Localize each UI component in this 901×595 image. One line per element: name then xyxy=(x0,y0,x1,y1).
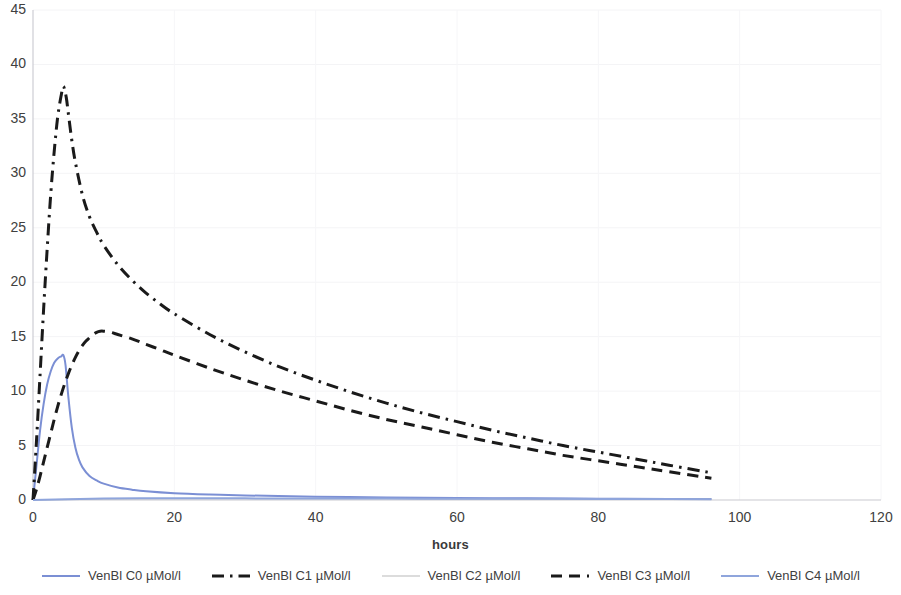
legend-swatch xyxy=(41,570,81,582)
x-tick-label: 60 xyxy=(437,509,477,525)
x-axis-title: hours xyxy=(0,537,901,552)
legend-label: VenBl C2 µMol/l xyxy=(428,568,521,583)
legend-label: VenBl C3 µMol/l xyxy=(597,568,690,583)
chart-legend: VenBl C0 µMol/lVenBl C1 µMol/lVenBl C2 µ… xyxy=(0,568,901,583)
legend-swatch xyxy=(381,570,421,582)
legend-item[interactable]: VenBl C0 µMol/l xyxy=(41,568,181,583)
data-series-group xyxy=(33,86,711,500)
y-tick-label: 40 xyxy=(0,55,26,71)
y-tick-label: 25 xyxy=(0,219,26,235)
legend-label: VenBl C1 µMol/l xyxy=(258,568,351,583)
legend-item[interactable]: VenBl C2 µMol/l xyxy=(381,568,521,583)
legend-swatch xyxy=(720,570,760,582)
y-tick-label: 15 xyxy=(0,328,26,344)
series-line-venbl-c0-mol-l xyxy=(33,355,711,500)
x-tick-label: 0 xyxy=(13,509,53,525)
x-tick-label: 40 xyxy=(296,509,336,525)
x-tick-label: 100 xyxy=(720,509,760,525)
legend-label: VenBl C4 µMol/l xyxy=(767,568,860,583)
series-line-venbl-c3-mol-l xyxy=(33,331,711,500)
x-tick-label: 80 xyxy=(578,509,618,525)
gridlines xyxy=(33,10,881,500)
legend-item[interactable]: VenBl C3 µMol/l xyxy=(550,568,690,583)
y-tick-label: 45 xyxy=(0,1,26,17)
y-tick-label: 35 xyxy=(0,110,26,126)
legend-swatch xyxy=(550,570,590,582)
x-tick-label: 20 xyxy=(154,509,194,525)
series-line-venbl-c1-mol-l xyxy=(33,86,711,500)
plot-area xyxy=(0,0,901,595)
chart-container: 051015202530354045 020406080100120 hours… xyxy=(0,0,901,595)
y-tick-label: 0 xyxy=(0,491,26,507)
y-tick-label: 10 xyxy=(0,382,26,398)
legend-swatch xyxy=(211,570,251,582)
y-tick-label: 20 xyxy=(0,273,26,289)
legend-item[interactable]: VenBl C4 µMol/l xyxy=(720,568,860,583)
x-tick-label: 120 xyxy=(861,509,901,525)
legend-label: VenBl C0 µMol/l xyxy=(88,568,181,583)
y-tick-label: 30 xyxy=(0,164,26,180)
legend-item[interactable]: VenBl C1 µMol/l xyxy=(211,568,351,583)
y-tick-label: 5 xyxy=(0,437,26,453)
